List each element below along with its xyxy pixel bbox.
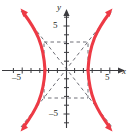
left-branch-lower — [24, 70, 46, 127]
x-tick-label-pos5: 5 — [105, 73, 110, 82]
y-axis-label: y — [57, 3, 61, 12]
right-branch-upper — [88, 13, 110, 70]
hyperbola-plot — [0, 0, 131, 133]
y-tick-label-pos5: 5 — [53, 21, 58, 30]
x-tick-label-neg5: –5 — [12, 73, 21, 82]
y-tick-label-neg5: –5 — [49, 109, 58, 118]
x-axis-label: x — [122, 67, 126, 76]
y-axis — [63, 9, 69, 128]
left-branch-upper — [24, 13, 46, 70]
hyperbola-figure: y x –5 5 5 –5 — [0, 0, 131, 133]
